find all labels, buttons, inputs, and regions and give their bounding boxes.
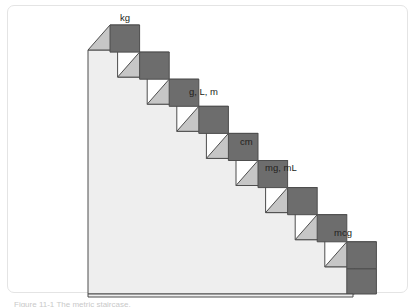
- step-label-cm: cm: [240, 136, 253, 147]
- step-riser-2: [140, 52, 170, 79]
- staircase-diagram: kgg, L, mcmmg, mLmcg: [0, 0, 415, 308]
- step-riser-7: [288, 188, 318, 215]
- step-label-mg-ml: mg, mL: [265, 162, 297, 173]
- step-riser-1: [110, 25, 140, 52]
- step-label-mcg: mcg: [334, 227, 352, 238]
- step-label-kg: kg: [120, 12, 130, 23]
- step-riser-9: [347, 242, 377, 269]
- staircase-base-edge: [88, 294, 353, 297]
- step-label-g-l-m: g, L, m: [189, 86, 218, 97]
- staircase-right-face: [347, 269, 377, 294]
- figure-caption: Figure 11-1 The metric staircase.: [14, 300, 344, 307]
- step-riser-4: [199, 106, 229, 133]
- staircase-left-wall: [88, 50, 354, 294]
- staircase-body: [88, 25, 376, 297]
